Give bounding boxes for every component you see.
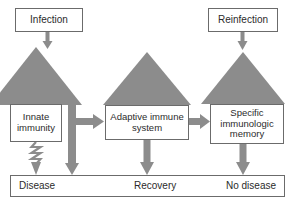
outcome-no-disease-label: No disease bbox=[226, 180, 276, 191]
left-triangle-to-disease-arrow-icon bbox=[65, 100, 79, 175]
node-adaptive-immune-system-label-line1: Adaptive immune bbox=[110, 112, 183, 123]
innate-to-disease-squiggly-arrow-icon bbox=[32, 142, 41, 164]
infection-to-triangle-arrow-icon bbox=[43, 32, 53, 49]
node-reinfection-label: Reinfection bbox=[218, 14, 268, 25]
node-innate-immunity: Innate immunity bbox=[10, 104, 62, 142]
outcome-disease-label: Disease bbox=[19, 180, 55, 191]
outcomes-bar: Disease Recovery No disease bbox=[10, 175, 285, 197]
innate-to-disease-arrowhead-icon bbox=[31, 162, 41, 175]
right-triangle bbox=[201, 52, 285, 104]
node-infection: Infection bbox=[15, 8, 83, 32]
outcome-recovery-label: Recovery bbox=[134, 180, 176, 191]
node-specific-memory-label-line3: memory bbox=[220, 129, 273, 140]
adaptive-to-recovery-arrow-icon bbox=[140, 140, 154, 175]
node-adaptive-immune-system: Adaptive immune system bbox=[105, 105, 189, 140]
node-innate-immunity-label-line2: immunity bbox=[17, 123, 55, 134]
middle-triangle bbox=[103, 52, 191, 105]
reinfection-to-triangle-arrow-icon bbox=[238, 32, 248, 50]
specific-to-no-disease-arrow-icon bbox=[236, 144, 250, 175]
immunity-flow-diagram: Infection Reinfection Innate immunity Ad… bbox=[0, 0, 293, 202]
adaptive-to-specific-arrow-icon bbox=[189, 114, 210, 129]
left-triangle bbox=[0, 47, 82, 105]
node-specific-immunologic-memory: Specific immunologic memory bbox=[210, 104, 284, 144]
node-reinfection: Reinfection bbox=[208, 8, 278, 32]
node-infection-label: Infection bbox=[30, 14, 68, 25]
node-adaptive-immune-system-label-line2: system bbox=[110, 123, 183, 134]
